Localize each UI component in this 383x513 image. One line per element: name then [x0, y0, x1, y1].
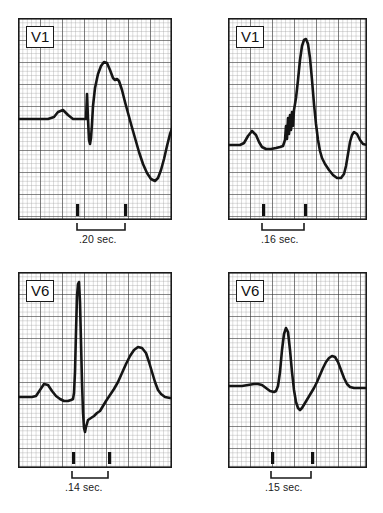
lead-label-text: V6 [31, 282, 49, 299]
interval-label-top-right: .16 sec. [261, 233, 299, 245]
lead-label-box: V6 [26, 280, 54, 302]
lead-label-text: V1 [241, 28, 259, 45]
timing-tick-right [108, 452, 111, 464]
interval-bracket-top-left [76, 222, 132, 232]
ecg-strip-top-left [18, 18, 172, 220]
ecg-figure: V1 .20 sec. V1 [0, 0, 383, 513]
ecg-panel-bottom-right: V6 [228, 272, 367, 468]
interval-bracket-top-right [261, 222, 311, 232]
lead-label-text: V6 [241, 282, 259, 299]
ecg-panel-bottom-left: V6 [18, 272, 172, 468]
interval-bracket-bottom-right [270, 470, 318, 480]
lead-label-box: V1 [26, 26, 54, 48]
lead-label-text: V1 [31, 28, 49, 45]
timing-tick-left [76, 204, 79, 216]
lead-label-box: V1 [236, 26, 264, 48]
interval-label-top-left: .20 sec. [79, 233, 117, 245]
interval-label-bottom-left: .14 sec. [65, 481, 103, 493]
interval-bracket-bottom-left [71, 470, 115, 480]
timing-tick-right [311, 452, 314, 464]
timing-tick-left [271, 452, 274, 464]
interval-label-bottom-right: .15 sec. [265, 481, 303, 493]
ecg-strip-top-right [228, 18, 367, 220]
timing-tick-left [262, 204, 265, 216]
ecg-panel-top-right: V1 [228, 18, 367, 220]
timing-tick-left [72, 452, 75, 464]
lead-label-box: V6 [236, 280, 264, 302]
timing-tick-right [304, 204, 307, 216]
grid-major-lines [228, 18, 367, 220]
ecg-panel-top-left: V1 [18, 18, 172, 220]
timing-tick-right [124, 204, 127, 216]
